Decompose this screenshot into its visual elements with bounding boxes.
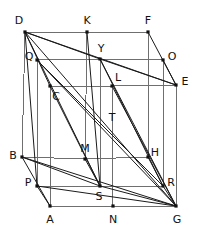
vertex-dot-y (98, 57, 101, 60)
point-label-o: O (168, 51, 177, 62)
figure-canvas (0, 0, 197, 247)
edge-l-e (112, 85, 176, 86)
edge-q-y (37, 59, 100, 60)
point-label-m: M (80, 143, 90, 154)
point-label-f: F (145, 15, 151, 26)
vertex-dot-r (161, 184, 164, 187)
point-label-n: N (109, 214, 117, 225)
vertex-dot-q (35, 58, 38, 61)
point-label-g: G (173, 214, 182, 225)
vertex-dot-d (23, 30, 26, 33)
vertex-dot-o (161, 58, 164, 61)
point-label-q: Q (25, 51, 34, 62)
point-label-b: B (9, 150, 17, 161)
point-label-p: P (25, 177, 32, 188)
point-label-c: C (52, 91, 60, 102)
edge-b-m (22, 157, 85, 159)
vertex-dot-s (98, 184, 101, 187)
edge-k-m (85, 32, 87, 159)
diagonal-p-a (37, 186, 50, 206)
edge-m-h (85, 157, 148, 159)
point-label-k: K (83, 15, 90, 26)
diagonal-p-g (37, 186, 176, 206)
vertex-dot-f (146, 30, 149, 33)
vertex-dot-l (110, 84, 113, 87)
point-label-h: H (151, 147, 159, 158)
vertex-dot-k (85, 30, 88, 33)
edge-y-o (100, 59, 163, 60)
geometry-figure: DKFQYOCLETBMHPSRANG (0, 0, 197, 247)
point-label-y: Y (98, 43, 105, 54)
point-label-l: L (115, 72, 121, 83)
vertex-dot-b (20, 155, 23, 158)
vertex-dot-p (35, 184, 38, 187)
vertex-dot-e (174, 83, 177, 86)
vertex-dot-h (146, 155, 149, 158)
vertex-dot-c (48, 84, 51, 87)
vertex-dot-a (48, 204, 51, 207)
vertex-dot-n (111, 204, 114, 207)
point-label-a: A (46, 214, 54, 225)
point-label-r: R (167, 177, 175, 188)
point-label-e: E (182, 76, 189, 87)
point-label-s: S (96, 191, 103, 202)
point-label-t: T (109, 112, 116, 123)
edge-l-n (112, 86, 113, 206)
point-label-d: D (15, 15, 23, 26)
vertex-dot-g (174, 204, 177, 207)
vertex-dot-m (83, 157, 86, 160)
